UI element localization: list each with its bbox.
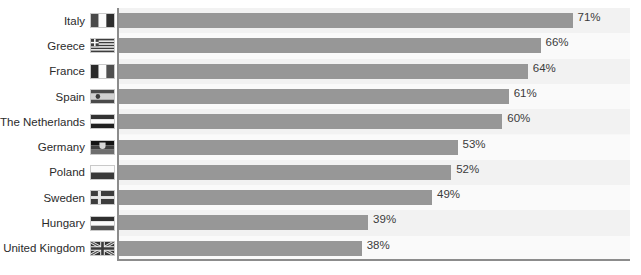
chart-row: 39% xyxy=(119,210,630,235)
bar[interactable] xyxy=(119,215,368,230)
category-axis-row: Spain xyxy=(0,84,117,109)
bar[interactable] xyxy=(119,241,362,256)
bar-value-label: 38% xyxy=(367,239,390,251)
category-label: Germany xyxy=(38,141,85,153)
bar[interactable] xyxy=(119,38,541,53)
category-label: Italy xyxy=(64,15,85,27)
united-kingdom-flag-icon xyxy=(90,241,115,256)
category-axis: Italy Greece France Spain The Netherland… xyxy=(0,8,117,261)
category-label: France xyxy=(49,65,85,77)
category-axis-row: France xyxy=(0,59,117,84)
category-axis-row: Sweden xyxy=(0,185,117,210)
chart-row: 53% xyxy=(119,135,630,160)
bar-value-label: 66% xyxy=(546,36,569,48)
category-axis-row: The Netherlands xyxy=(0,109,117,134)
chart-row: 60% xyxy=(119,109,630,134)
chart-row: 66% xyxy=(119,33,630,58)
category-axis-row: Italy xyxy=(0,8,117,33)
germany-flag-icon xyxy=(90,140,115,155)
italy-flag-icon xyxy=(90,13,115,28)
bar-value-label: 64% xyxy=(533,62,556,74)
bar-value-label: 53% xyxy=(463,138,486,150)
category-axis-row: Hungary xyxy=(0,210,117,235)
plot-area: view preview 71%66%64%61%60%53%52%49%39%… xyxy=(117,8,630,261)
spain-flag-icon xyxy=(90,89,115,104)
bar-value-label: 71% xyxy=(578,11,601,23)
sweden-flag-icon xyxy=(90,190,115,205)
chart-row: 52% xyxy=(119,160,630,185)
bar-value-label: 60% xyxy=(507,112,530,124)
bar[interactable] xyxy=(119,190,432,205)
bar-value-label: 49% xyxy=(437,188,460,200)
category-label: Poland xyxy=(49,166,85,178)
bar[interactable] xyxy=(119,64,528,79)
hungary-flag-icon xyxy=(90,216,115,231)
france-flag-icon xyxy=(90,64,115,79)
poland-flag-icon xyxy=(90,165,115,180)
category-axis-row: United Kingdom xyxy=(0,236,117,261)
category-label: Hungary xyxy=(42,217,85,229)
bar[interactable] xyxy=(119,140,458,155)
chart-row: 49% xyxy=(119,185,630,210)
netherlands-flag-icon xyxy=(90,114,115,129)
bar-value-label: 52% xyxy=(456,163,479,175)
bar-value-label: 61% xyxy=(514,87,537,99)
bar[interactable] xyxy=(119,114,502,129)
greece-flag-icon xyxy=(90,38,115,53)
bar-chart: Italy Greece France Spain The Netherland… xyxy=(0,0,641,275)
category-axis-row: Greece xyxy=(0,33,117,58)
category-label: Spain xyxy=(56,91,85,103)
bar[interactable] xyxy=(119,13,573,28)
chart-row: 71% xyxy=(119,8,630,33)
bar[interactable] xyxy=(119,165,451,180)
category-axis-row: Germany xyxy=(0,135,117,160)
category-axis-row: Poland xyxy=(0,160,117,185)
bar-value-label: 39% xyxy=(373,213,396,225)
category-label: The Netherlands xyxy=(0,116,85,128)
chart-row: 38% xyxy=(119,236,630,261)
chart-row: 61% xyxy=(119,84,630,109)
category-label: Greece xyxy=(47,40,85,52)
category-label: United Kingdom xyxy=(3,242,85,254)
bar[interactable] xyxy=(119,89,509,104)
category-label: Sweden xyxy=(43,192,85,204)
chart-row: 64% xyxy=(119,59,630,84)
